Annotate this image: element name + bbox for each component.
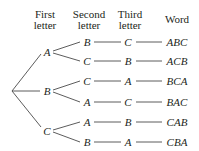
- word-node: ABC: [167, 37, 188, 48]
- first-letter-node: B: [44, 86, 51, 97]
- second-letter-node: A: [84, 117, 91, 128]
- word-node: CBA: [167, 137, 188, 148]
- third-letter-node: C: [124, 37, 131, 48]
- word-node: BAC: [167, 97, 188, 108]
- word-node: ACB: [167, 56, 188, 67]
- first-letter-node: C: [43, 126, 50, 137]
- header-first-letter: First letter: [30, 9, 60, 31]
- second-letter-node: C: [83, 56, 90, 67]
- header-third-letter: Third letter: [114, 9, 146, 31]
- third-letter-node: A: [125, 76, 132, 87]
- second-letter-node: B: [84, 37, 91, 48]
- header-second-letter: Second letter: [71, 9, 107, 31]
- first-letter-node: A: [44, 47, 51, 58]
- third-letter-node: B: [125, 56, 132, 67]
- word-node: CAB: [167, 117, 188, 128]
- third-letter-node: B: [125, 117, 132, 128]
- third-letter-node: A: [125, 137, 132, 148]
- second-letter-node: B: [84, 137, 91, 148]
- second-letter-node: A: [84, 97, 91, 108]
- second-letter-node: C: [83, 76, 90, 87]
- word-node: BCA: [167, 76, 188, 87]
- header-word: Word: [160, 14, 194, 25]
- third-letter-node: C: [124, 97, 131, 108]
